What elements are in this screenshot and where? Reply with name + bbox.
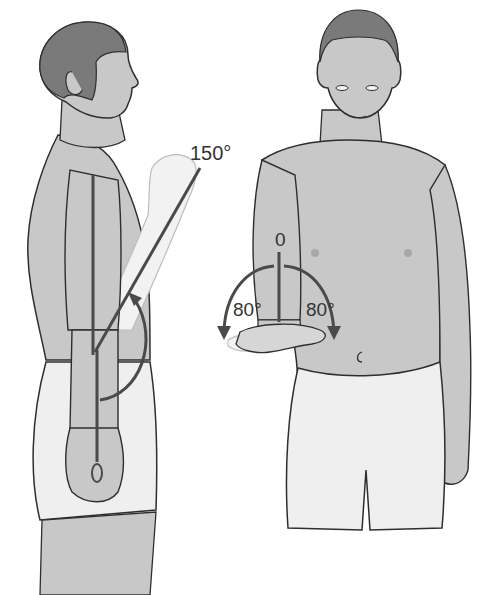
front-shorts xyxy=(286,362,444,530)
supination-angle-label: 80° xyxy=(306,300,335,319)
side-legs xyxy=(40,512,156,595)
neutral-angle-label: 0 xyxy=(275,230,286,249)
nipple-right xyxy=(404,249,412,257)
front-eye-left xyxy=(336,86,348,91)
pronation-angle-label: 80° xyxy=(233,300,262,319)
front-view-figure xyxy=(217,10,471,530)
pronation-arrowhead-icon xyxy=(217,326,231,340)
front-eye-right xyxy=(366,86,378,91)
range-of-motion-illustration xyxy=(0,0,485,595)
nipple-left xyxy=(311,249,319,257)
flexion-end-angle-label: 150° xyxy=(190,143,231,163)
side-view-figure xyxy=(28,22,200,595)
